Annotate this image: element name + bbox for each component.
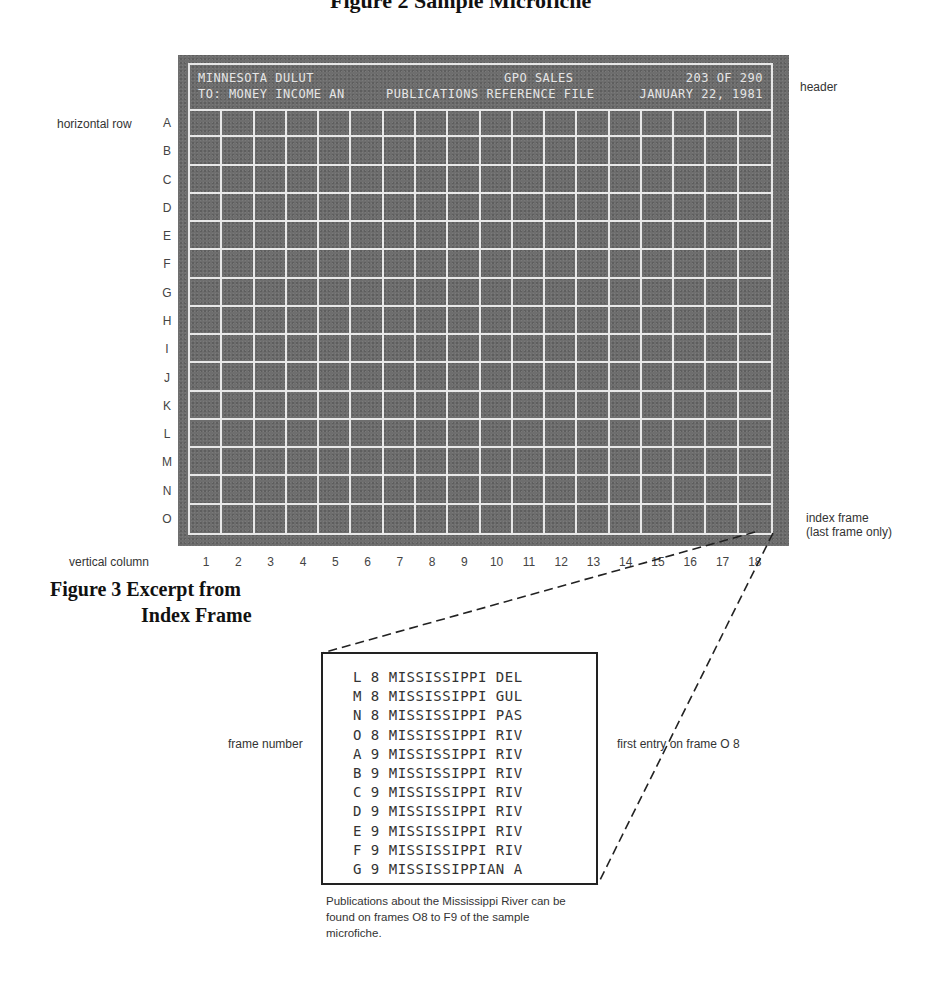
row-label-C: C bbox=[159, 173, 175, 187]
frame-cell-I1 bbox=[190, 335, 222, 363]
frame-cell-F4 bbox=[287, 250, 319, 278]
frame-cell-J15 bbox=[642, 363, 674, 391]
frame-cell-E16 bbox=[674, 222, 706, 250]
frame-cell-O11 bbox=[513, 505, 545, 533]
frame-cell-K9 bbox=[448, 392, 480, 420]
frame-cell-H8 bbox=[416, 307, 448, 335]
header-right-line1: 203 OF 290 bbox=[686, 71, 763, 85]
frame-cell-N17 bbox=[706, 476, 738, 504]
frame-cell-G17 bbox=[706, 279, 738, 307]
frame-cell-E1 bbox=[190, 222, 222, 250]
frame-cell-E5 bbox=[319, 222, 351, 250]
column-label-13: 13 bbox=[578, 555, 608, 569]
frame-cell-H7 bbox=[384, 307, 416, 335]
frame-cell-E2 bbox=[222, 222, 254, 250]
frame-cell-L14 bbox=[610, 420, 642, 448]
frame-cell-I12 bbox=[545, 335, 577, 363]
callout-line-left bbox=[322, 532, 755, 653]
index-entry: B 9 MISSISSIPPI RIV bbox=[353, 764, 523, 783]
frame-cell-D13 bbox=[577, 194, 609, 222]
frame-cell-I14 bbox=[610, 335, 642, 363]
frame-cell-M15 bbox=[642, 448, 674, 476]
frame-cell-A11 bbox=[513, 109, 545, 137]
frame-cell-A5 bbox=[319, 109, 351, 137]
frame-cell-E12 bbox=[545, 222, 577, 250]
column-label-16: 16 bbox=[675, 555, 705, 569]
frame-cell-N11 bbox=[513, 476, 545, 504]
row-label-G: G bbox=[159, 286, 175, 300]
frame-cell-O6 bbox=[351, 505, 383, 533]
frame-cell-M18 bbox=[739, 448, 771, 476]
frame-cell-J11 bbox=[513, 363, 545, 391]
row-label-F: F bbox=[159, 257, 175, 271]
frame-cell-H2 bbox=[222, 307, 254, 335]
frame-cell-B9 bbox=[448, 137, 480, 165]
frame-cell-H10 bbox=[481, 307, 513, 335]
frame-cell-G1 bbox=[190, 279, 222, 307]
frame-cell-M7 bbox=[384, 448, 416, 476]
frame-cell-J13 bbox=[577, 363, 609, 391]
frame-cell-I6 bbox=[351, 335, 383, 363]
frame-cell-K8 bbox=[416, 392, 448, 420]
frame-cell-K6 bbox=[351, 392, 383, 420]
frame-cell-G4 bbox=[287, 279, 319, 307]
frame-cell-I13 bbox=[577, 335, 609, 363]
frame-cell-H3 bbox=[255, 307, 287, 335]
frame-cell-D5 bbox=[319, 194, 351, 222]
frame-cell-B8 bbox=[416, 137, 448, 165]
frame-cell-H11 bbox=[513, 307, 545, 335]
frame-cell-J12 bbox=[545, 363, 577, 391]
microfiche-frame: MINNESOTA DULUT TO: MONEY INCOME AN GPO … bbox=[188, 63, 773, 535]
frame-cell-H14 bbox=[610, 307, 642, 335]
frame-cell-O9 bbox=[448, 505, 480, 533]
frame-cell-M9 bbox=[448, 448, 480, 476]
frame-cell-K10 bbox=[481, 392, 513, 420]
header-left-line2: TO: MONEY INCOME AN bbox=[198, 87, 345, 101]
frame-cell-C15 bbox=[642, 166, 674, 194]
frame-cell-L9 bbox=[448, 420, 480, 448]
frame-cell-E13 bbox=[577, 222, 609, 250]
index-entry: G 9 MISSISSIPPIAN A bbox=[353, 860, 523, 879]
row-label-O: O bbox=[159, 512, 175, 526]
column-label-6: 6 bbox=[353, 555, 383, 569]
frame-cell-F5 bbox=[319, 250, 351, 278]
frame-cell-I3 bbox=[255, 335, 287, 363]
figure-caption-line1: Figure 3 Excerpt from bbox=[50, 578, 241, 601]
column-label-11: 11 bbox=[514, 555, 544, 569]
frame-cell-O17 bbox=[706, 505, 738, 533]
column-label-4: 4 bbox=[288, 555, 318, 569]
frame-cell-M10 bbox=[481, 448, 513, 476]
frame-cell-O10 bbox=[481, 505, 513, 533]
frame-cell-D16 bbox=[674, 194, 706, 222]
frame-cell-A18 bbox=[739, 109, 771, 137]
frame-cell-M6 bbox=[351, 448, 383, 476]
frame-cell-A7 bbox=[384, 109, 416, 137]
frame-cell-L15 bbox=[642, 420, 674, 448]
frame-cell-J16 bbox=[674, 363, 706, 391]
frame-cell-H17 bbox=[706, 307, 738, 335]
index-entry: D 9 MISSISSIPPI RIV bbox=[353, 802, 523, 821]
frame-cell-B10 bbox=[481, 137, 513, 165]
frame-cell-F15 bbox=[642, 250, 674, 278]
frame-cell-D15 bbox=[642, 194, 674, 222]
row-label-D: D bbox=[159, 201, 175, 215]
header-center-line2: PUBLICATIONS REFERENCE FILE bbox=[386, 87, 595, 101]
column-label-5: 5 bbox=[320, 555, 350, 569]
frame-cell-J3 bbox=[255, 363, 287, 391]
frame-cell-A13 bbox=[577, 109, 609, 137]
frame-cell-G5 bbox=[319, 279, 351, 307]
column-label-14: 14 bbox=[611, 555, 641, 569]
frame-cell-E4 bbox=[287, 222, 319, 250]
column-label-8: 8 bbox=[417, 555, 447, 569]
frame-cell-K11 bbox=[513, 392, 545, 420]
row-label-N: N bbox=[159, 484, 175, 498]
frame-cell-C8 bbox=[416, 166, 448, 194]
frame-cell-J10 bbox=[481, 363, 513, 391]
row-label-I: I bbox=[159, 342, 175, 356]
row-label-A: A bbox=[159, 116, 175, 130]
frame-cell-K16 bbox=[674, 392, 706, 420]
frame-cell-O8 bbox=[416, 505, 448, 533]
frame-cell-A4 bbox=[287, 109, 319, 137]
index-entry: A 9 MISSISSIPPI RIV bbox=[353, 745, 523, 764]
frame-cell-B7 bbox=[384, 137, 416, 165]
